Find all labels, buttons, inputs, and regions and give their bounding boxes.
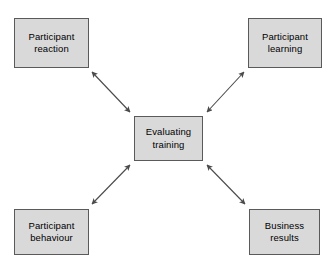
- diagram-canvas: Participant reaction Participant learnin…: [0, 0, 336, 268]
- node-participant-reaction-label: Participant reaction: [27, 31, 77, 56]
- node-participant-reaction: Participant reaction: [14, 18, 89, 68]
- node-evaluating-training-label: Evaluating training: [144, 126, 193, 151]
- node-evaluating-training: Evaluating training: [134, 116, 203, 161]
- node-participant-learning: Participant learning: [248, 18, 322, 68]
- connector-behaviour-center: [92, 165, 130, 204]
- node-participant-behaviour: Participant behaviour: [14, 209, 89, 255]
- connector-learning-center: [207, 72, 244, 112]
- node-business-results: Business results: [249, 209, 320, 255]
- connector-reaction-center: [92, 72, 130, 112]
- node-participant-learning-label: Participant learning: [260, 31, 310, 56]
- connector-results-center: [207, 165, 245, 204]
- node-business-results-label: Business results: [263, 220, 306, 245]
- node-participant-behaviour-label: Participant behaviour: [27, 220, 77, 245]
